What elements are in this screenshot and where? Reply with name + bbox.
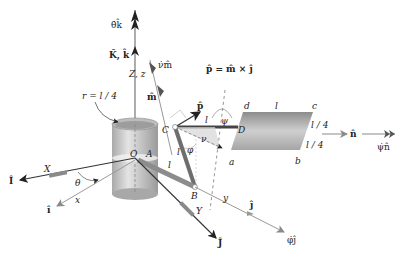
label-b: b [295,156,301,166]
label-a: a [229,157,234,167]
label-theta-dot-k: θ̇k̂ [111,18,122,30]
label-Zz: Z, z [128,69,146,79]
label-nu-dot-m: ν̇m̂ [158,60,172,70]
label-l-CD: l [205,115,208,125]
label-p-hat: p̂ [197,101,203,111]
label-l4-top: l / 4 [311,120,329,130]
label-J-hat: Ĵ [217,237,222,248]
label-nu: ν [201,134,207,144]
label-c: c [312,101,317,111]
label-X: X [43,164,51,174]
label-O: O [130,149,138,159]
label-l-CB: l [177,147,180,157]
label-B: B [190,191,198,201]
label-psi: ψ [221,116,229,126]
label-phi: φ [187,145,194,155]
label-m-hat: m̂ [147,92,157,102]
label-d: d [244,101,250,111]
label-l-top: l [275,101,278,111]
label-Y: Y [196,206,203,216]
label-psi-dot-n: ψ̇n̂ [377,142,390,152]
label-radius: r = l / 4 [82,91,117,101]
label-theta: θ [75,178,81,188]
formula-p-equals-m-cross-j: p̂ = m̂ × ĵ [206,64,253,74]
y-axis [195,187,284,232]
label-y: y [222,193,229,203]
label-i-hat: î [47,205,51,215]
label-l-AB: l [168,160,171,170]
p-hat-vector [175,112,200,127]
label-l4-bottom: l / 4 [306,140,324,150]
label-D: D [237,125,245,135]
cylinder [112,118,158,200]
label-I-hat: Î [9,175,13,186]
mechanism-diagram: θ̇k̂ K̂, k̂ Z, z ν̇m̂ m̂ p̂ = m̂ × ĵ r =… [0,0,407,257]
label-K-k: K̂, k̂ [109,48,130,61]
label-j-hat: ĵ [249,200,254,210]
label-x: x [75,195,80,205]
joint-C [173,125,178,130]
label-phi-dot-j: φ̇ĵ [287,235,296,245]
label-n-hat: n̂ [350,129,357,139]
label-C: C [162,125,169,135]
label-A: A [145,149,153,159]
